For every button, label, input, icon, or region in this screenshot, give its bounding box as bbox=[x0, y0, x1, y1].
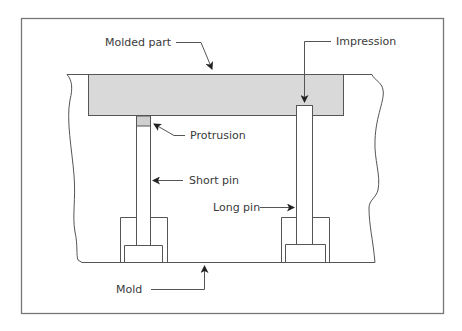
protrusion bbox=[137, 116, 151, 126]
label-long-pin: Long pin bbox=[213, 201, 260, 214]
label-impression: Impression bbox=[336, 35, 396, 48]
mold-diagram: Molded part Impression Protrusion Short … bbox=[0, 0, 462, 331]
short-pin bbox=[121, 116, 168, 263]
label-mold: Mold bbox=[116, 283, 142, 296]
label-protrusion: Protrusion bbox=[190, 129, 246, 142]
long-pin bbox=[282, 106, 330, 263]
figure-frame bbox=[22, 19, 444, 314]
label-molded-part: Molded part bbox=[105, 36, 172, 49]
label-short-pin: Short pin bbox=[189, 174, 239, 187]
